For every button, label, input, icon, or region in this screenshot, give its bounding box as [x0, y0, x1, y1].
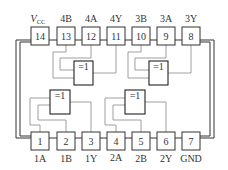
xor-gate-4-symbol: =1	[78, 61, 89, 72]
pin-3: 3 1Y	[82, 132, 100, 164]
pin-2: 2 1B	[57, 132, 75, 164]
pin-10: 10 3B	[132, 13, 150, 45]
gate-1: =1	[50, 90, 70, 114]
pin-11-number: 11	[111, 31, 121, 42]
internal-wiring	[30, 45, 191, 132]
xor-gate-1-symbol: =1	[55, 90, 66, 101]
pin-8: 8 3Y	[182, 13, 200, 45]
pin-14-label: VCC	[31, 13, 46, 25]
chip-outline-left-inner	[20, 42, 31, 136]
wire-3y	[168, 45, 191, 73]
pin-12: 12 4A	[82, 13, 100, 45]
pin-1-number: 1	[38, 136, 43, 147]
pin-7: 7 GND	[180, 132, 202, 164]
pin-13-label: 4B	[60, 13, 72, 24]
pin-6-number: 6	[164, 136, 169, 147]
pin-7-label: GND	[180, 153, 202, 164]
wire-1y	[70, 102, 91, 132]
gate-2: =1	[125, 90, 145, 114]
wire-4y	[93, 45, 116, 73]
pin-9-number: 9	[164, 31, 169, 42]
pin-12-number: 12	[86, 31, 96, 42]
wire-4b	[53, 45, 74, 78]
pin-4-label: 2A	[110, 152, 123, 163]
pin-9: 9 3A	[157, 13, 175, 45]
pin-9-label: 3A	[160, 13, 173, 24]
chip-outline-right-outer	[200, 40, 214, 138]
pin-3-number: 3	[89, 136, 94, 147]
pin-4: 4 2A	[107, 132, 125, 163]
pin-2-label: 1B	[60, 153, 72, 164]
wire-2a	[105, 98, 125, 132]
pin-11-label: 4Y	[110, 13, 122, 24]
chip-outline-left-outer	[16, 40, 31, 138]
pin-7-number: 7	[189, 136, 194, 147]
gate-4: =1	[74, 61, 93, 85]
pin-4-number: 4	[114, 136, 119, 147]
pin-5-label: 2B	[135, 153, 147, 164]
pin-14: 14 VCC	[31, 13, 49, 45]
pin-8-label: 3Y	[185, 13, 197, 24]
wire-1a	[30, 98, 50, 132]
pin-3-label: 1Y	[85, 153, 97, 164]
pin-2-number: 2	[64, 136, 69, 147]
wire-2y	[145, 102, 166, 132]
pin-14-number: 14	[35, 31, 45, 42]
ic-pinout-diagram: =1 =1 =1 =1 14 VCC 13 4B 12 4A 11	[0, 0, 228, 170]
pin-13-number: 13	[61, 31, 71, 42]
pin-8-number: 8	[189, 31, 194, 42]
pin-1: 1 1A	[31, 132, 49, 164]
pin-5: 5 2B	[132, 132, 150, 164]
pin-12-label: 4A	[85, 13, 98, 24]
gate-3: =1	[149, 61, 168, 85]
pin-1-label: 1A	[34, 153, 47, 164]
pin-6: 6 2Y	[157, 132, 175, 164]
pin-6-label: 2Y	[160, 153, 172, 164]
bottom-pins: 1 1A 2 1B 3 1Y 4 2A 5 2B 6 2Y	[31, 132, 202, 164]
pin-11: 11 4Y	[107, 13, 125, 45]
pin-5-number: 5	[139, 136, 144, 147]
pin-13: 13 4B	[57, 13, 75, 45]
xor-gate-2-symbol: =1	[130, 90, 141, 101]
pin-10-label: 3B	[135, 13, 147, 24]
chip-body	[16, 40, 214, 138]
wire-3b	[128, 45, 149, 78]
pin-10-number: 10	[136, 31, 146, 42]
xor-gate-3-symbol: =1	[153, 61, 164, 72]
chip-outline-right-inner	[200, 42, 210, 136]
